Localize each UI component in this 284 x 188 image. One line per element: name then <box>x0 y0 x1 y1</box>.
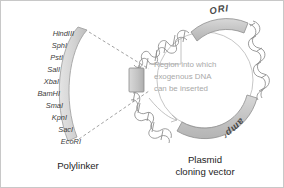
connector-line-top <box>89 32 149 69</box>
enzyme-label-saci: SacI <box>58 125 73 134</box>
enzyme-label-hindiii: HindIII <box>53 29 74 38</box>
enzyme-label-kpni: KpnI <box>52 113 67 122</box>
plasmid-cloning-vector-figure: HindIII SphI PstI SalI XbaI BamHI SmaI K… <box>0 0 284 188</box>
enzyme-label-bamhi: BamHI <box>37 89 60 98</box>
polylinker-group: HindIII SphI PstI SalI XbaI BamHI SmaI K… <box>37 27 99 171</box>
enzyme-label-xbai: XbaI <box>43 77 59 86</box>
polylinker-caption: Polylinker <box>57 160 99 171</box>
connector-line-bottom <box>79 91 149 139</box>
enzyme-label-smai: SmaI <box>46 101 63 110</box>
amp-arc <box>177 95 257 139</box>
enzyme-label-ecori: EcoRI <box>61 137 81 146</box>
plasmid-group: ORI ampr Region into which exogenous DNA… <box>129 2 269 177</box>
plasmid-caption-line-2: cloning vector <box>175 166 235 177</box>
enzyme-label-sphi: SphI <box>52 41 67 50</box>
plasmid-caption-line-1: Plasmid <box>188 154 222 165</box>
figure-canvas: HindIII SphI PstI SalI XbaI BamHI SmaI K… <box>1 1 284 188</box>
ori-arc <box>191 19 248 41</box>
enzyme-label-sali: SalI <box>47 65 60 74</box>
enzyme-label-psti: PstI <box>50 53 63 62</box>
insert-note-line-1: Region into which <box>154 60 216 69</box>
insert-note-line-2: exogenous DNA <box>154 72 212 81</box>
dna-helix-lower-left <box>131 92 171 143</box>
ori-label: ORI <box>208 2 229 17</box>
insert-note-line-3: can be inserted <box>154 84 208 93</box>
dna-helix-right <box>248 21 269 100</box>
insertion-site-box <box>129 68 144 92</box>
